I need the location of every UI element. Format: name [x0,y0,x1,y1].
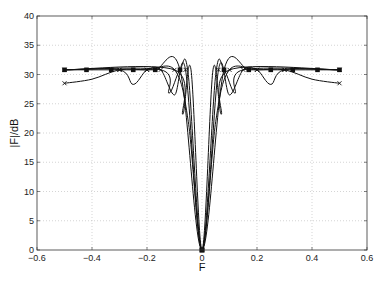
x-tick-label: 0.2 [251,253,264,263]
y-tick-label: 40 [24,11,34,21]
line-chart: −0.6−0.4−0.200.20.40.60510152025303540 F… [0,0,387,281]
x-tick-label: −0.2 [138,253,156,263]
x-axis-label: F [199,261,206,273]
y-tick-label: 5 [29,216,34,226]
x-tick-label: −0.4 [83,253,101,263]
y-tick-label: 0 [29,245,34,255]
y-tick-label: 25 [24,99,34,109]
y-axis-label: |F|/dB [8,119,20,148]
y-tick-label: 30 [24,70,34,80]
x-tick-label: 0.6 [361,253,374,263]
series-line-curve-3 [65,63,340,250]
series-line-curve-1 [65,66,340,250]
y-tick-label: 15 [24,157,34,167]
x-tick-label: 0.4 [306,253,319,263]
grid-lines [37,16,367,250]
y-tick-label: 20 [24,128,34,138]
y-tick-label: 35 [24,40,34,50]
y-tick-label: 10 [24,187,34,197]
